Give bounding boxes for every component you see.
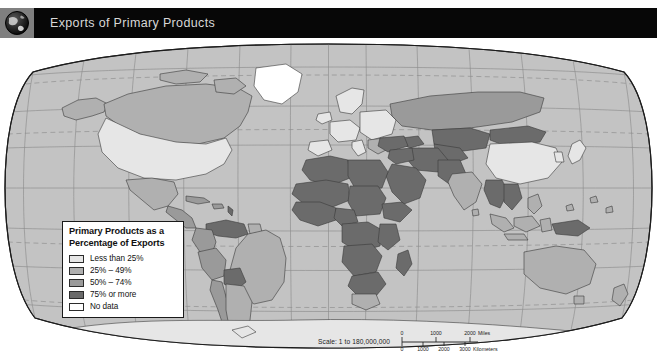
scale-km-tick-3000: 3000 xyxy=(459,346,471,352)
legend-title: Primary Products as a Percentage of Expo… xyxy=(69,226,178,249)
region-java xyxy=(504,234,528,240)
page-header: Exports of Primary Products xyxy=(0,8,657,38)
scale-miles-tick-2000: 2000 xyxy=(464,330,476,336)
legend-item-no-data: No data xyxy=(69,301,178,313)
legend-title-line1: Primary Products as a xyxy=(69,226,178,238)
scale-bar-svg: 0 1000 2000 Miles 0 1000 2000 3000 Kil xyxy=(400,330,530,352)
legend-label-25-49: 25% – 49% xyxy=(90,266,131,275)
legend-swatch-50-74 xyxy=(69,279,84,288)
legend-label-no-data: No data xyxy=(90,302,118,311)
scale-km-tick-0: 0 xyxy=(401,346,404,352)
region-hispaniola xyxy=(212,204,224,209)
legend-item-25-49: 25% – 49% xyxy=(69,265,178,277)
legend-item-50-74: 50% – 74% xyxy=(69,277,178,289)
scale-miles-tick-1000: 1000 xyxy=(430,330,442,336)
legend-swatch-no-data xyxy=(69,303,84,312)
map-page: Exports of Primary Products xyxy=(0,0,657,359)
page-title: Exports of Primary Products xyxy=(50,16,215,30)
legend-title-line2: Percentage of Exports xyxy=(69,238,178,250)
legend-swatch-75-or-more xyxy=(69,291,84,300)
legend-label-50-74: 50% – 74% xyxy=(90,278,131,287)
region-libya-egypt xyxy=(348,160,388,190)
legend-swatch-less-than-25 xyxy=(69,255,84,264)
region-korea xyxy=(554,152,564,162)
scale-km-unit: Kilometers xyxy=(473,346,498,352)
legend-swatch-25-49 xyxy=(69,267,84,276)
globe-icon xyxy=(0,8,34,38)
region-sulawesi xyxy=(540,218,552,232)
legend-label-less-than-25: Less than 25% xyxy=(90,254,144,263)
scale-ratio-text: Scale: 1 to 180,000,000 xyxy=(318,338,390,345)
scale-km-tick-2000: 2000 xyxy=(438,346,450,352)
legend-item-75-or-more: 75% or more xyxy=(69,289,178,301)
scale-km-tick-1000: 1000 xyxy=(417,346,429,352)
map-scale: Scale: 1 to 180,000,000 0 1000 2000 Mile… xyxy=(318,330,530,352)
scale-miles-unit: Miles xyxy=(478,330,491,336)
region-tasmania xyxy=(574,296,584,304)
region-sri-lanka xyxy=(472,209,479,216)
legend-item-less-than-25: Less than 25% xyxy=(69,253,178,265)
legend-label-75-or-more: 75% or more xyxy=(90,290,136,299)
scale-miles-ticks xyxy=(402,337,470,342)
globe-icon-svg xyxy=(4,10,30,36)
scale-km-ticks xyxy=(402,342,465,346)
map-legend: Primary Products as a Percentage of Expo… xyxy=(62,221,184,318)
scale-miles-tick-0: 0 xyxy=(401,330,404,336)
